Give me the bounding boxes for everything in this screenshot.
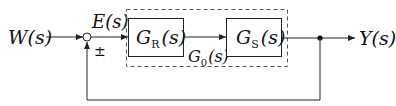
sign-label: ± [94, 43, 106, 59]
controller-label: GR(s) [136, 26, 186, 51]
plant-label: GS(s) [236, 26, 285, 51]
error-label: E(s) [91, 11, 128, 32]
output-label: Y(s) [359, 27, 396, 49]
summing-junction [83, 33, 91, 41]
open-loop-label: G0(s) [188, 47, 229, 68]
input-label: W(s) [8, 26, 52, 48]
block-diagram: W(s) ± E(s) GR(s) G0(s) GS(s) Y(s) [0, 0, 396, 106]
